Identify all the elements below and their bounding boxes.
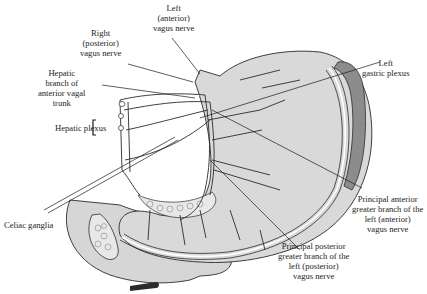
label-line: Right — [80, 28, 121, 38]
label-line: vagus nerve — [153, 23, 194, 33]
label-line: Principal posterior — [278, 241, 349, 251]
label-line: Hepatic — [38, 68, 85, 78]
label-principal-anterior-branch: Principal anterior greater branch of the… — [352, 194, 423, 234]
label-line: (anterior) — [153, 13, 194, 23]
label-line: Principal anterior — [352, 194, 423, 204]
label-line: vagus nerve — [352, 224, 423, 234]
label-hepatic-plexus: Hepatic plexus — [55, 123, 106, 133]
label-line: Hepatic plexus — [55, 123, 106, 133]
label-line: left (anterior) — [352, 214, 423, 224]
label-celiac-ganglia: Celiac ganglia — [4, 220, 53, 230]
vagus-stomach-illustration: Left (anterior) vagus nerve Right (poste… — [0, 0, 427, 294]
artist-signature-plate — [130, 282, 159, 291]
label-left-gastric-plexus: Left gastric plexus — [362, 58, 410, 78]
label-left-vagus-nerve: Left (anterior) vagus nerve — [153, 3, 194, 33]
label-line: gastric plexus — [362, 68, 410, 78]
label-line: Celiac ganglia — [4, 220, 53, 230]
label-hepatic-branch: Hepatic branch of anterior vagal trunk — [38, 68, 85, 108]
label-line: greater branch of the — [352, 204, 423, 214]
stomach-drawing — [0, 0, 427, 294]
label-line: vagus nerve — [80, 48, 121, 58]
label-line: anterior vagal — [38, 88, 85, 98]
label-principal-posterior-branch: Principal posterior greater branch of th… — [278, 241, 349, 281]
label-line: Left — [153, 3, 194, 13]
label-line: left (posterior) — [278, 261, 349, 271]
label-line: Left — [362, 58, 410, 68]
label-line: greater branch of the — [278, 251, 349, 261]
label-line: (posterior) — [80, 38, 121, 48]
label-line: branch of — [38, 78, 85, 88]
label-line: vagus nerve — [278, 271, 349, 281]
label-line: trunk — [38, 98, 85, 108]
label-right-vagus-nerve: Right (posterior) vagus nerve — [80, 28, 121, 58]
